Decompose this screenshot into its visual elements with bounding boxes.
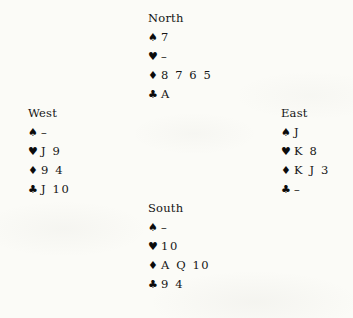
hand-east-clubs-cards: – — [294, 180, 301, 199]
hand-east-spades-row: ♠ J — [281, 123, 330, 142]
hand-east: East ♠ J ♥ K 8 ♦ K J 3 ♣ – — [281, 104, 330, 199]
spade-icon: ♠ — [281, 123, 292, 142]
hand-east-spades-cards: J — [294, 123, 300, 142]
diamond-icon: ♦ — [28, 161, 39, 180]
hand-north-hearts-row: ♥ – — [148, 47, 212, 66]
hand-west-hearts-cards: J 9 — [41, 142, 61, 161]
diamond-icon: ♦ — [281, 161, 292, 180]
hand-east-diamonds-row: ♦ K J 3 — [281, 161, 330, 180]
hand-west-label: West — [28, 104, 70, 123]
hand-west-clubs-cards: J 10 — [41, 180, 70, 199]
hand-west-diamonds-cards: 9 4 — [41, 161, 64, 180]
heart-icon: ♥ — [281, 142, 292, 161]
hand-north-spades-cards: 7 — [161, 28, 170, 47]
diamond-icon: ♦ — [148, 256, 159, 275]
hand-north-spades-row: ♠ 7 — [148, 28, 212, 47]
hand-west-diamonds-row: ♦ 9 4 — [28, 161, 70, 180]
hand-north-diamonds-cards: 8 7 6 5 — [161, 66, 212, 85]
hand-north-clubs-row: ♣ A — [148, 85, 212, 104]
hand-west: West ♠ – ♥ J 9 ♦ 9 4 ♣ J 10 — [28, 104, 70, 199]
hand-west-spades-cards: – — [41, 123, 48, 142]
hand-east-hearts-row: ♥ K 8 — [281, 142, 330, 161]
hand-south-clubs-cards: 9 4 — [161, 275, 184, 294]
club-icon: ♣ — [28, 180, 39, 199]
hand-south-hearts-row: ♥ 10 — [148, 237, 210, 256]
diamond-icon: ♦ — [148, 66, 159, 85]
club-icon: ♣ — [148, 85, 159, 104]
hand-east-hearts-cards: K 8 — [294, 142, 318, 161]
hand-north-diamonds-row: ♦ 8 7 6 5 — [148, 66, 212, 85]
heart-icon: ♥ — [148, 237, 159, 256]
hand-south-spades-cards: – — [161, 218, 168, 237]
hand-west-spades-row: ♠ – — [28, 123, 70, 142]
club-icon: ♣ — [281, 180, 292, 199]
hand-south-label: South — [148, 199, 210, 218]
hand-south-diamonds-cards: A Q 10 — [161, 256, 210, 275]
hand-north: North ♠ 7 ♥ – ♦ 8 7 6 5 ♣ A — [148, 9, 212, 104]
hand-south-diamonds-row: ♦ A Q 10 — [148, 256, 210, 275]
hand-north-label: North — [148, 9, 212, 28]
spade-icon: ♠ — [148, 28, 159, 47]
hand-west-hearts-row: ♥ J 9 — [28, 142, 70, 161]
hand-south: South ♠ – ♥ 10 ♦ A Q 10 ♣ 9 4 — [148, 199, 210, 294]
hand-south-clubs-row: ♣ 9 4 — [148, 275, 210, 294]
heart-icon: ♥ — [28, 142, 39, 161]
club-icon: ♣ — [148, 275, 159, 294]
hand-north-hearts-cards: – — [161, 47, 168, 66]
hand-north-clubs-cards: A — [161, 85, 171, 104]
spade-icon: ♠ — [28, 123, 39, 142]
hand-south-hearts-cards: 10 — [161, 237, 179, 256]
hand-east-label: East — [281, 104, 330, 123]
hand-east-diamonds-cards: K J 3 — [294, 161, 330, 180]
hand-east-clubs-row: ♣ – — [281, 180, 330, 199]
hand-west-clubs-row: ♣ J 10 — [28, 180, 70, 199]
heart-icon: ♥ — [148, 47, 159, 66]
hand-south-spades-row: ♠ – — [148, 218, 210, 237]
spade-icon: ♠ — [148, 218, 159, 237]
